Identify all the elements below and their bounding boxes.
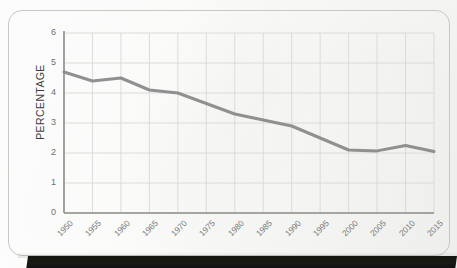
x-tick-label: 1960 — [101, 218, 132, 249]
x-tick-label: 2005 — [357, 218, 388, 249]
x-tick-label: 1985 — [243, 218, 274, 249]
x-tick-label: 1975 — [186, 218, 217, 249]
x-axis-tick-labels: 1950195519601965197019751980198519901995… — [0, 0, 457, 268]
dark-page-band — [26, 256, 457, 268]
x-tick-label: 1995 — [300, 218, 331, 249]
x-tick-label: 1950 — [44, 218, 75, 249]
x-tick-label: 1955 — [72, 218, 103, 249]
x-tick-label: 2010 — [385, 218, 416, 249]
line-chart: PERCENTAGE 0123456 195019551960196519701… — [0, 0, 457, 268]
x-tick-label: 1980 — [215, 218, 246, 249]
x-tick-label: 1965 — [129, 218, 160, 249]
x-tick-label: 2000 — [329, 218, 360, 249]
x-tick-label: 1970 — [158, 218, 189, 249]
x-tick-label: 2015 — [414, 218, 445, 249]
x-tick-label: 1990 — [272, 218, 303, 249]
